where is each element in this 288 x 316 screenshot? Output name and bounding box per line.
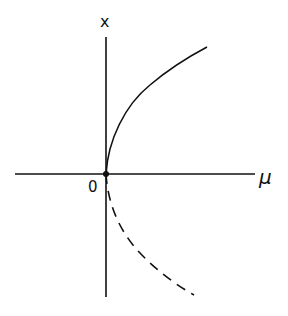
origin-label: 0 (88, 178, 98, 196)
stable-branch-curve (106, 47, 207, 174)
unstable-branch-curve (106, 174, 194, 295)
x-axis-label: x (100, 12, 109, 31)
bifurcation-diagram: x μ 0 (0, 0, 288, 316)
mu-axis-label: μ (258, 165, 272, 189)
origin-point (103, 171, 109, 177)
